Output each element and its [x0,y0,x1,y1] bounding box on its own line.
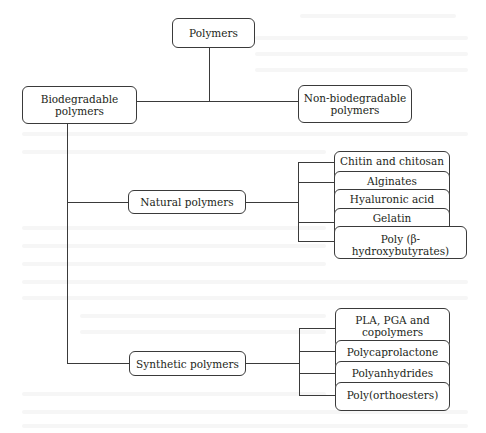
node-label: PLA, PGA and [355,314,429,326]
node-synthetic-polymers: Synthetic polymers [129,351,246,376]
node-label: Non-biodegradable [304,92,406,104]
leaf-poly-orthoesters: Poly(orthoesters) [335,382,450,411]
node-label: Natural polymers [140,196,233,208]
connector-root-down [209,48,210,101]
connector-to-natural [67,202,128,203]
connector-natural-out [246,202,298,203]
natural-tick [298,182,335,183]
node-label: Gelatin [373,212,412,224]
synthetic-tick [299,395,335,396]
connector-to-synthetic [67,363,129,364]
synthetic-bracket [299,328,300,395]
node-non-biodegradable-polymers: Non-biodegradable polymers [298,85,412,123]
node-polymers: Polymers [172,18,255,48]
synthetic-tick [299,328,335,329]
synthetic-tick [299,351,335,352]
node-natural-polymers: Natural polymers [128,190,246,214]
node-label: Hyaluronic acid [350,193,434,205]
node-label: Polycaprolactone [347,346,438,358]
natural-tick [298,222,335,223]
synthetic-tick [299,373,335,374]
node-label: Synthetic polymers [136,358,239,370]
connector-biodegradable-trunk [67,124,68,364]
node-biodegradable-polymers: Biodegradable polymers [22,86,137,124]
node-label: Polyanhydrides [352,367,433,379]
node-label: polymers [331,104,380,116]
node-label: Chitin and chitosan [340,155,444,167]
connector-synthetic-out [246,363,299,364]
connector-root-branch [137,101,298,102]
node-label: Alginates [367,175,417,187]
natural-tick [298,241,335,242]
natural-bracket [298,162,299,242]
natural-tick [298,162,335,163]
node-label: Biodegradable [41,93,119,105]
node-label: Poly(orthoesters) [347,389,439,401]
node-label: polymers [55,105,104,117]
node-label: Polymers [189,27,238,39]
node-label: copolymers [362,326,423,338]
node-label: Poly (β-hydroxybutyrates) [335,233,466,257]
leaf-poly-beta-hydroxybutyrates: Poly (β-hydroxybutyrates) [334,226,467,259]
